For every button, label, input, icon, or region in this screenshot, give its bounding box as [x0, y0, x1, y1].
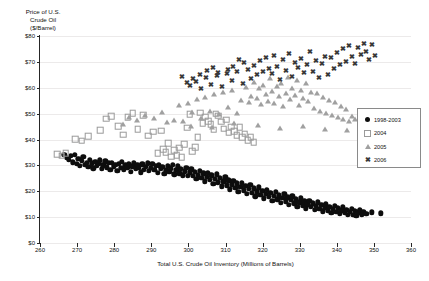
data-point-2006: ✖ — [372, 53, 378, 59]
y-axis-label-line-1: Price of U.S. — [8, 8, 78, 16]
data-point-2006: ✖ — [210, 65, 216, 71]
data-point-1998-2003 — [378, 211, 383, 216]
y-tick-label: $20 — [25, 188, 35, 194]
data-point-2005 — [271, 100, 277, 105]
x-tick — [263, 243, 264, 247]
data-point-2005 — [255, 123, 261, 128]
data-point-2004 — [192, 144, 199, 151]
data-point-2004 — [181, 141, 188, 148]
chart-legend: 1998-200320042005✖2006 — [357, 108, 421, 168]
legend-item-1998-2003[interactable]: 1998-2003 — [363, 113, 420, 127]
y-tick — [37, 88, 41, 89]
data-point-2006: ✖ — [361, 41, 367, 47]
data-point-2005 — [258, 101, 264, 106]
data-point-2005 — [211, 91, 217, 96]
x-tick-label: 310 — [220, 247, 230, 253]
data-point-2005 — [305, 99, 311, 104]
y-axis-label-line-3: ($/Barrel) — [8, 24, 78, 32]
data-point-1998-2003 — [369, 210, 374, 215]
data-point-2004 — [194, 134, 201, 141]
data-point-2004 — [134, 126, 141, 133]
legend-marker-icon — [363, 117, 372, 122]
data-point-2005 — [231, 120, 237, 125]
x-tick — [226, 243, 227, 247]
data-point-2006: ✖ — [277, 77, 283, 83]
data-point-2005 — [298, 87, 304, 92]
data-point-2006: ✖ — [346, 43, 352, 49]
data-point-2004 — [250, 139, 257, 146]
legend-marker-icon: ✖ — [363, 157, 372, 163]
legend-item-2004[interactable]: 2004 — [363, 127, 420, 141]
legend-marker-icon — [363, 130, 372, 137]
data-point-2005 — [300, 124, 306, 129]
gridline — [40, 36, 411, 37]
data-point-2006: ✖ — [316, 75, 322, 81]
data-point-2005 — [344, 128, 350, 133]
data-point-2006: ✖ — [307, 49, 313, 55]
data-point-2004 — [158, 127, 165, 134]
y-tick-label: $30 — [25, 162, 35, 168]
data-point-2006: ✖ — [229, 78, 235, 84]
data-point-2005 — [120, 121, 126, 126]
plot-area: Total U.S. Crude Oil Inventory (Millions… — [40, 36, 411, 243]
data-point-2006: ✖ — [225, 67, 231, 73]
y-tick — [37, 217, 41, 218]
x-tick — [40, 243, 41, 247]
data-point-2004 — [97, 127, 104, 134]
x-tick — [77, 243, 78, 247]
x-tick-label: 350 — [369, 247, 379, 253]
y-tick — [37, 140, 41, 141]
y-tick-label: $0 — [28, 240, 35, 246]
x-tick-label: 320 — [258, 247, 268, 253]
data-point-2006: ✖ — [280, 57, 286, 63]
data-point-2006: ✖ — [241, 60, 247, 66]
legend-item-2005[interactable]: 2005 — [363, 140, 420, 154]
data-point-2005 — [198, 116, 204, 121]
data-point-2006: ✖ — [236, 57, 242, 63]
data-point-2005 — [322, 127, 328, 132]
data-point-2005 — [343, 107, 349, 112]
x-tick-label: 330 — [295, 247, 305, 253]
data-point-2005 — [189, 110, 195, 115]
y-tick-label: $70 — [25, 59, 35, 65]
y-tick-label: $60 — [25, 85, 35, 91]
data-point-2006: ✖ — [269, 71, 275, 77]
data-point-2006: ✖ — [240, 81, 246, 87]
x-tick-label: 270 — [72, 247, 82, 253]
y-tick — [37, 114, 41, 115]
x-tick-label: 300 — [183, 247, 193, 253]
x-tick — [337, 243, 338, 247]
x-tick-label: 340 — [332, 247, 342, 253]
data-point-2004 — [223, 117, 230, 124]
data-point-2005 — [216, 112, 222, 117]
x-tick-label: 360 — [406, 247, 416, 253]
legend-item-2006[interactable]: ✖2006 — [363, 154, 420, 168]
data-point-2005 — [265, 98, 271, 103]
data-point-2006: ✖ — [219, 84, 225, 90]
data-point-2005 — [296, 102, 302, 107]
data-point-2005 — [180, 118, 186, 123]
data-point-2006: ✖ — [369, 42, 375, 48]
y-tick-label: $10 — [25, 214, 35, 220]
y-tick — [37, 191, 41, 192]
x-tick — [374, 243, 375, 247]
data-point-2006: ✖ — [289, 74, 295, 80]
data-point-2006: ✖ — [208, 82, 214, 88]
data-point-2005 — [292, 92, 298, 97]
y-tick — [37, 165, 41, 166]
data-point-2004 — [178, 154, 185, 161]
gridline — [40, 88, 411, 89]
data-point-2004 — [108, 113, 115, 120]
data-point-2006: ✖ — [204, 68, 210, 74]
data-point-2005 — [159, 109, 165, 114]
data-point-2005 — [280, 104, 286, 109]
y-tick-label: $40 — [25, 137, 35, 143]
legend-label: 1998-2003 — [374, 117, 401, 123]
data-point-2005 — [202, 95, 208, 100]
data-point-2006: ✖ — [179, 74, 185, 80]
data-point-2005 — [234, 110, 240, 115]
legend-label: 2005 — [374, 144, 386, 150]
data-point-2006: ✖ — [215, 70, 221, 76]
data-point-2004 — [165, 140, 172, 147]
data-point-2005 — [207, 108, 213, 113]
